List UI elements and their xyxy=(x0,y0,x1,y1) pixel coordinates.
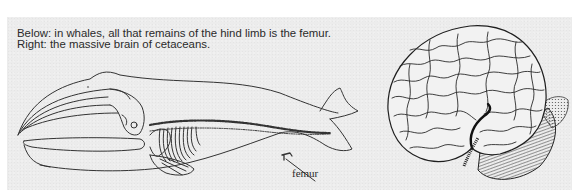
femur-label: femur xyxy=(292,167,318,179)
cetacean-brain-figure xyxy=(380,20,570,188)
figure-caption: Below: in whales, all that remains of th… xyxy=(17,28,331,50)
caption-line-2: Right: the massive brain of cetaceans. xyxy=(17,39,331,50)
whale-skeleton-figure xyxy=(10,55,370,185)
